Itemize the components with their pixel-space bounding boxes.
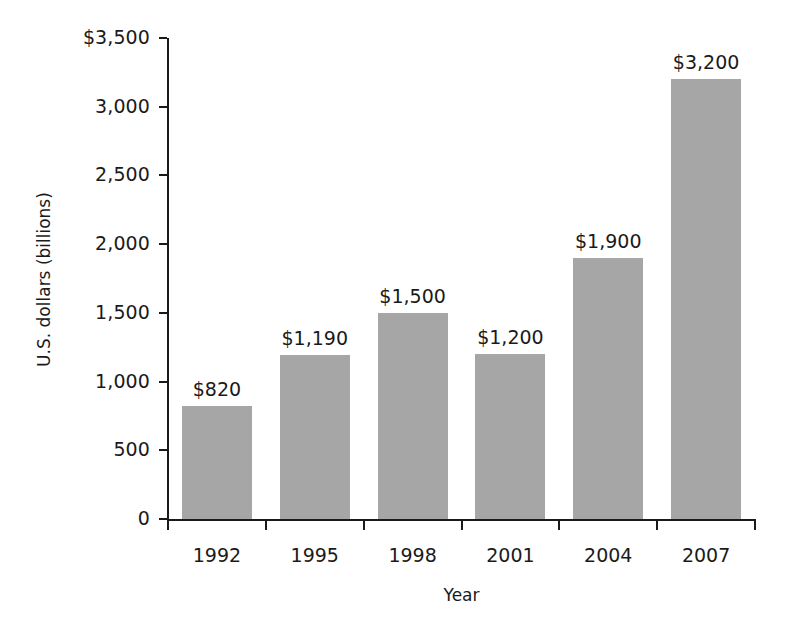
bar — [573, 258, 643, 519]
x-axis-tick-label: 1992 — [168, 546, 266, 565]
bar — [475, 354, 545, 519]
y-axis-tick-label: $3,500 — [0, 28, 150, 47]
bar-value-label: $1,900 — [559, 232, 657, 251]
y-axis-tick — [159, 243, 167, 245]
y-axis-tick — [159, 106, 167, 108]
x-axis-tick — [363, 521, 365, 530]
y-axis-tick-label: 500 — [0, 440, 150, 459]
y-axis-tick — [159, 37, 167, 39]
bar — [671, 79, 741, 519]
y-axis-tick — [159, 449, 167, 451]
y-axis-tick — [159, 518, 167, 520]
bar-value-label: $3,200 — [657, 53, 755, 72]
y-axis-tick-label: 2,500 — [0, 165, 150, 184]
x-axis-tick-label: 2001 — [462, 546, 560, 565]
x-axis-tick-label: 1995 — [266, 546, 364, 565]
x-axis-tick — [167, 521, 169, 530]
x-axis-tick-label: 2007 — [657, 546, 755, 565]
x-axis-title: Year — [168, 587, 755, 604]
y-axis-line — [167, 38, 169, 521]
y-axis-title: U.S. dollars (billions) — [36, 39, 53, 520]
y-axis-tick-label: 2,000 — [0, 234, 150, 253]
x-axis-tick — [265, 521, 267, 530]
bar — [182, 406, 252, 519]
x-axis-tick — [558, 521, 560, 530]
bar — [280, 355, 350, 519]
bar-value-label: $1,500 — [364, 287, 462, 306]
bar-value-label: $1,190 — [266, 329, 364, 348]
y-axis-tick-label: 0 — [0, 509, 150, 528]
x-axis-tick — [461, 521, 463, 530]
bar-chart: 05001,0001,5002,0002,5003,000$3,500 1992… — [0, 0, 788, 631]
x-axis-tick — [754, 521, 756, 530]
x-axis-tick — [656, 521, 658, 530]
x-axis-tick-label: 2004 — [559, 546, 657, 565]
y-axis-tick-label: 3,000 — [0, 97, 150, 116]
x-axis-tick-label: 1998 — [364, 546, 462, 565]
y-axis-tick — [159, 381, 167, 383]
y-axis-tick-label: 1,000 — [0, 372, 150, 391]
bar-value-label: $820 — [168, 380, 266, 399]
y-axis-tick-label: 1,500 — [0, 303, 150, 322]
y-axis-tick — [159, 174, 167, 176]
y-axis-tick — [159, 312, 167, 314]
bar-value-label: $1,200 — [462, 328, 560, 347]
bar — [378, 313, 448, 519]
